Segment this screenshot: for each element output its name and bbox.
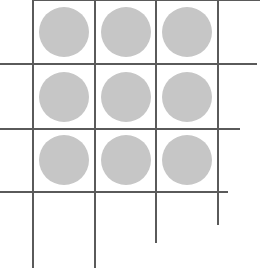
horizontal-grid-line (0, 191, 228, 193)
horizontal-grid-line (0, 128, 240, 130)
gray-circle (162, 72, 212, 122)
grid-diagram (0, 0, 260, 268)
gray-circle (162, 7, 212, 57)
gray-circle (39, 7, 89, 57)
horizontal-grid-line (0, 63, 257, 65)
gray-circle (101, 135, 151, 185)
gray-circle (162, 135, 212, 185)
gray-circle (39, 72, 89, 122)
vertical-grid-line (32, 0, 34, 268)
vertical-grid-line (94, 0, 96, 268)
horizontal-grid-line (33, 0, 260, 1)
vertical-grid-line (155, 0, 157, 243)
gray-circle (39, 135, 89, 185)
gray-circle (101, 72, 151, 122)
gray-circle (101, 7, 151, 57)
